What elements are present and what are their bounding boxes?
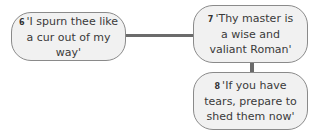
connector-6-7 — [124, 34, 194, 37]
quote-node-6: 6'I spurn thee like a cur out of my way' — [11, 12, 126, 61]
node-number: 7 — [208, 15, 214, 24]
node-text: 'I spurn thee like a cur out of my way' — [26, 15, 118, 59]
quote-text-7: 7'Thy master is a wise and valiant Roman… — [204, 11, 297, 57]
node-number: 8 — [215, 82, 221, 91]
node-text: 'Thy master is a wise and valiant Roman' — [209, 12, 293, 56]
node-number: 6 — [19, 18, 25, 27]
quote-text-6: 6'I spurn thee like a cur out of my way' — [18, 14, 119, 60]
quote-node-8: 8'If you have tears, prepare to shed the… — [193, 72, 308, 130]
quote-text-8: 8'If you have tears, prepare to shed the… — [202, 78, 299, 124]
quote-node-7: 7'Thy master is a wise and valiant Roman… — [193, 5, 308, 63]
